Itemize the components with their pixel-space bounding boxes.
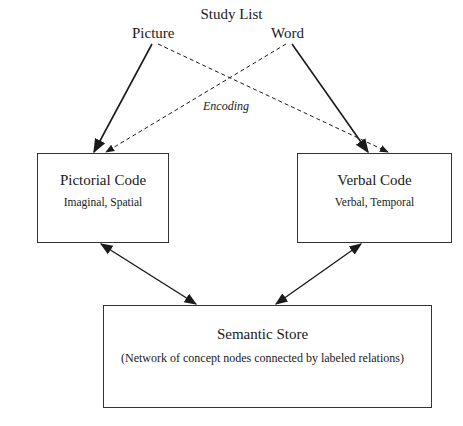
- semantic-store-description: (Network of concept nodes connected by l…: [121, 351, 421, 365]
- verbal-code-title: Verbal Code: [298, 172, 451, 189]
- pictorial-code-subtitle: Imaginal, Spatial: [38, 196, 168, 208]
- semantic-store-title: Semantic Store: [94, 326, 431, 343]
- study-list-title: Study List: [0, 6, 463, 23]
- arrow-word-to-verbal: [292, 44, 368, 152]
- pictorial-code-box: Pictorial Code Imaginal, Spatial: [37, 153, 169, 243]
- encoding-label: Encoding: [203, 99, 249, 114]
- word-label: Word: [271, 25, 304, 42]
- semantic-store-box: Semantic Store (Network of concept nodes…: [103, 305, 432, 408]
- arrow-word-to-pictorial: [106, 44, 286, 152]
- arrow-picture-to-verbal: [158, 44, 388, 152]
- verbal-code-box: Verbal Code Verbal, Temporal: [297, 153, 452, 243]
- pictorial-code-title: Pictorial Code: [38, 172, 168, 189]
- arrow-pictorial-semantic: [101, 244, 196, 304]
- verbal-code-subtitle: Verbal, Temporal: [298, 196, 451, 208]
- arrow-verbal-semantic: [276, 244, 361, 304]
- picture-label: Picture: [132, 25, 175, 42]
- arrow-picture-to-pictorial: [94, 44, 152, 152]
